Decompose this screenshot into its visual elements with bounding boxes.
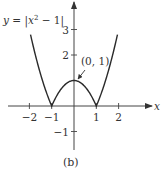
y-tick-label: −1 [54, 126, 69, 138]
graph-svg: −2−112 32−1 y = |x2 − 1| (0, 1) x (b) [0, 0, 165, 172]
figure-caption: (b) [63, 156, 79, 169]
annotation-point-label: (0, 1) [81, 55, 109, 67]
x-tick-label: −1 [44, 111, 59, 123]
function-label: y = |x2 − 1| [2, 14, 64, 28]
x-tick-label: −2 [22, 111, 37, 123]
annotation-arrow [78, 70, 85, 79]
x-tick-label: 2 [115, 111, 122, 123]
function-graph: −2−112 32−1 y = |x2 − 1| (0, 1) x (b) [0, 0, 165, 172]
y-tick-label: 2 [62, 49, 69, 61]
x-tick-label: 1 [93, 111, 100, 123]
x-axis-label: x [154, 100, 160, 112]
